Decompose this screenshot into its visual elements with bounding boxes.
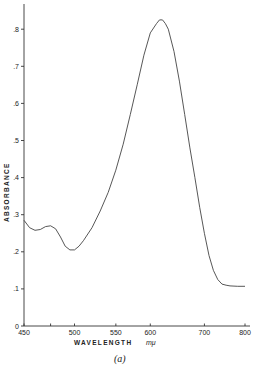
y-tick-label: .3 bbox=[13, 211, 19, 218]
x-axis-unit: mμ bbox=[146, 339, 156, 347]
figure-caption: (a) bbox=[114, 353, 126, 365]
y-tick-label: .1 bbox=[13, 285, 19, 292]
x-tick-label: 700 bbox=[199, 329, 211, 336]
y-tick-label: .5 bbox=[13, 137, 19, 144]
x-tick-label: 500 bbox=[69, 329, 81, 336]
y-tick-label: .7 bbox=[13, 63, 19, 70]
absorbance-chart: 0.1.2.3.4.5.6.7.8 450500550600700800 ABS… bbox=[0, 0, 257, 367]
y-tick-label: .6 bbox=[13, 100, 19, 107]
y-axis-title: ABSORBANCE bbox=[3, 162, 10, 222]
x-axis-title: WAVELENGTH bbox=[74, 339, 132, 346]
x-ticks: 450500550600700800 bbox=[18, 324, 251, 337]
y-tick-label: .8 bbox=[13, 26, 19, 33]
y-tick-label: .2 bbox=[13, 248, 19, 255]
y-tick-label: .4 bbox=[13, 174, 19, 181]
x-tick-label: 600 bbox=[144, 329, 156, 336]
x-tick-label: 550 bbox=[110, 329, 122, 336]
axes bbox=[24, 4, 250, 326]
x-tick-label: 800 bbox=[239, 329, 251, 336]
y-ticks: 0.1.2.3.4.5.6.7.8 bbox=[13, 26, 24, 330]
absorbance-curve bbox=[24, 20, 245, 286]
x-tick-label: 450 bbox=[18, 329, 30, 336]
